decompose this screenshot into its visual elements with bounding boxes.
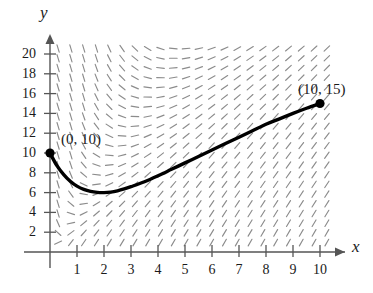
slope-field-segment [286,181,290,187]
slope-field-segment [81,230,86,236]
slope-field-segment [106,155,114,156]
slope-field-segment [273,162,278,168]
slope-field-segment [95,94,98,101]
slope-field-segment [247,75,253,80]
y-axis-arrowhead [46,34,55,44]
slope-field-segment [70,123,72,130]
slope-field-segment [274,220,278,227]
slope-field-segment [299,172,303,178]
slope-field-segment [106,201,112,206]
slope-field-segment [70,152,72,159]
slope-field-segment [273,94,278,99]
slope-field-segment [312,181,316,187]
slope-field-segment [108,55,111,62]
slope-field-segment [248,210,252,216]
slope-field-segment [170,115,177,119]
slope-field-segment [234,85,240,90]
slope-field-segment [158,182,163,188]
slope-field-segment [311,65,316,70]
slope-field-segment [184,181,189,187]
slope-field-segment [157,115,164,118]
slope-field-segment [325,220,329,227]
y-tick-label: 2 [14,225,36,239]
slope-field-segment [183,153,188,158]
slope-field-segment [197,220,201,226]
slope-field-segment [170,96,177,99]
slope-field-segment [144,106,152,107]
slope-field-segment [95,84,98,91]
slope-field-segment [286,210,290,216]
slope-field-segment [299,181,303,187]
slope-field-segment [222,210,226,216]
slope-field-segment [222,191,226,197]
slope-field-segment [183,114,189,118]
slope-field-segment [223,239,227,246]
slope-field-segment [83,84,85,91]
slope-field-segment [195,67,202,70]
slope-field-segment [131,96,138,98]
slope-field-segment [247,95,253,100]
slope-field-segment [196,143,201,148]
slope-field-segment [325,191,329,197]
slope-field-segment [144,47,151,51]
slope-field-segment [171,172,176,178]
y-tick-label: 14 [14,106,36,120]
slope-field-segment [157,125,164,128]
slope-field-segment [260,133,265,139]
slope-field-segment [299,75,304,80]
y-tick-label: 4 [14,205,36,219]
slope-field-segment [298,56,304,61]
slope-field-segment [169,68,177,69]
start-point-marker [45,148,54,157]
slope-field-segment [82,239,86,245]
slope-field-segment [286,56,292,61]
slope-field-segment [324,65,329,70]
slope-field-segment [183,95,190,98]
slope-field-segment [222,162,227,168]
slope-field-segment [157,96,164,97]
start-point-annotation: (0, 10) [61,132,101,147]
slope-field-segment [81,172,87,177]
slope-field-segment [235,230,239,237]
slope-field-segment [118,154,125,156]
slope-field-segment [95,64,98,71]
slope-field-segment [299,201,303,207]
slope-field-segment [144,57,151,60]
slope-field-segment [83,45,85,52]
slope-field-segment [119,201,124,206]
slope-field-segment [287,220,291,227]
slope-field-segment [93,153,100,157]
slope-field-segment [157,134,164,138]
slope-field-segment [222,181,227,187]
slope-field-segment [106,174,113,176]
slope-field-segment [197,191,202,197]
slope-field-segment [57,171,59,178]
slope-field-segment [157,143,163,147]
slope-field-segment [80,183,87,186]
slope-field-segment [57,181,59,188]
slope-field-segment [93,164,100,167]
slope-field-segment [69,240,74,246]
slope-field-segment [247,123,252,129]
slope-field-segment [157,47,164,49]
slope-field-segment [299,220,303,227]
slope-field-segment [260,143,265,149]
slope-field-segment [158,220,162,226]
slope-field-segment [106,183,113,186]
slope-field-segment [260,114,265,120]
slope-field-segment [182,76,189,78]
slope-field-segment [132,66,138,70]
slope-field-segment [324,104,329,110]
slope-field-segment [273,75,279,80]
slope-field-segment [120,211,125,217]
slope-field-segment [184,191,189,197]
slope-field-segment [93,174,101,175]
slope-field-segment [222,152,227,158]
slope-field-segment [120,45,124,51]
slope-field-segment [312,152,316,158]
slope-field-segment [95,45,97,52]
slope-field-segment [57,123,59,130]
slope-field-segment [132,191,137,196]
slope-field-segment [312,123,317,129]
slope-field-segment [107,65,111,72]
